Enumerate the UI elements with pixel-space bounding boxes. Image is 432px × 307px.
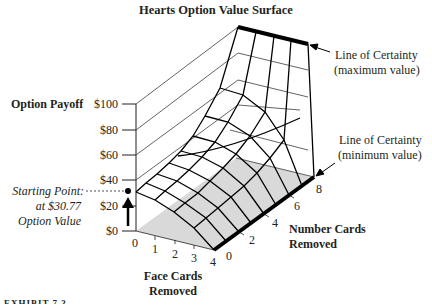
number-axis-label-line2: Removed — [289, 237, 337, 251]
number-tick-4: 4 — [272, 217, 278, 229]
certainty-max-line1: Line of Certainty — [335, 48, 418, 62]
back-wall-gridlines — [136, 27, 314, 180]
z-tick-100: $100 — [78, 98, 118, 110]
floor-plane — [136, 158, 314, 250]
number-tick-6: 6 — [294, 200, 300, 212]
start-arrow-head — [122, 197, 134, 208]
face-tick-1: 1 — [152, 243, 158, 255]
face-tick-2: 2 — [172, 248, 178, 260]
certainty-min-line2: (minimum value) — [338, 148, 422, 162]
start-point-line1: Starting Point: — [8, 184, 84, 198]
z-tick-60: $60 — [78, 149, 118, 161]
number-tick-0: 0 — [226, 250, 232, 262]
z-tick-20: $20 — [78, 200, 118, 212]
start-point-line2: at $30.77 — [8, 199, 81, 213]
face-tick-4: 4 — [210, 256, 216, 268]
certainty-max-line2: (maximum value) — [334, 63, 420, 77]
face-tick-3: 3 — [191, 252, 197, 264]
start-point-line3: Option Value — [8, 214, 81, 228]
face-axis-label-line1: Face Cards — [143, 269, 203, 283]
z-tick-40: $40 — [78, 174, 118, 186]
z-tick-0: $0 — [78, 225, 118, 237]
start-point-dot — [125, 188, 131, 194]
face-axis-label-line2: Removed — [143, 284, 203, 298]
z-tick-80: $80 — [78, 124, 118, 136]
number-tick-2: 2 — [249, 234, 255, 246]
face-tick-0: 0 — [132, 237, 138, 249]
exhibit-label: EXHIBIT 7.3 — [4, 298, 67, 304]
number-axis-label-line1: Number Cards — [289, 222, 366, 236]
z-axis-label: Option Payoff — [11, 97, 83, 111]
certainty-min-line1: Line of Certainty — [339, 133, 422, 147]
number-tick-8: 8 — [316, 183, 322, 195]
certainty-arrows — [310, 44, 335, 176]
